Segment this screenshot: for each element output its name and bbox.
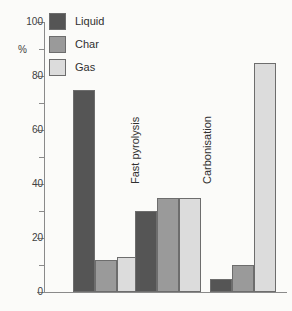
bar-fast-pyrolysis-char [95, 260, 117, 292]
y-tick-minor-70 [39, 103, 44, 104]
category-label-fast-pyrolysis: Fast pyrolysis [130, 117, 141, 184]
y-tick-label-0: 0 [37, 287, 43, 297]
x-axis-line [44, 292, 287, 293]
y-tick-label-40: 40 [32, 179, 43, 189]
y-tick-label-100: 100 [26, 17, 43, 27]
y-tick-label-80: 80 [32, 71, 43, 81]
bar-carbonisation-char [157, 198, 179, 293]
bar-carbonisation-liquid [135, 211, 157, 292]
bar-gasification-char [232, 265, 254, 292]
plot-area: Fast pyrolysis Carbonisation Gasificatio… [45, 22, 287, 292]
y-tick-minor-30 [39, 211, 44, 212]
bar-carbonisation-gas [179, 198, 201, 293]
y-tick-minor-10 [39, 265, 44, 266]
y-tick-label-60: 60 [32, 125, 43, 135]
bar-chart: % 100 80 60 40 20 0 Liquid Char Gas Fast… [0, 0, 292, 311]
bar-fast-pyrolysis-liquid [73, 90, 95, 293]
y-tick-minor-90 [39, 49, 44, 50]
y-axis-unit-label: % [18, 45, 27, 55]
y-tick-minor-50 [39, 157, 44, 158]
category-label-carbonisation: Carbonisation [202, 116, 213, 184]
y-tick-label-20: 20 [32, 233, 43, 243]
bar-gasification-gas [254, 63, 276, 293]
bar-gasification-liquid [210, 279, 232, 293]
